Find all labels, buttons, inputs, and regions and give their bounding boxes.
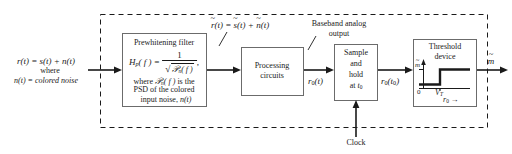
clock-arrow xyxy=(353,100,360,137)
formula-numerator: 1 xyxy=(162,50,197,61)
prewhitening-filter-title: Prewhitening filter xyxy=(134,39,194,48)
processing-circuits-line1: Processing xyxy=(255,62,290,71)
m-tilde-accent-plot: ~ xyxy=(416,57,420,64)
input-arrow xyxy=(88,67,122,74)
output-signal-label: ~m xyxy=(488,56,495,66)
threshold-transfer-plot xyxy=(419,59,470,91)
plot-y-axis-label: ~m xyxy=(415,62,420,70)
m-tilde-accent-output: ~ xyxy=(489,50,494,59)
clock-label: Clock xyxy=(346,139,365,148)
r0-of-t0-label: r0(t0) xyxy=(381,76,399,87)
s-tilde-accent: ~ xyxy=(233,14,238,23)
arrow-prewhitening-to-processing xyxy=(207,67,241,74)
arrow-sample-hold-to-threshold xyxy=(378,67,413,74)
output-arrow xyxy=(477,67,508,74)
plot-y-axis-arrowhead xyxy=(421,59,426,65)
n-tilde-accent: ~ xyxy=(256,14,261,23)
plot-step-curve xyxy=(419,70,470,85)
plot-origin-label: 0 xyxy=(417,89,421,97)
leader-line-prewhitened-signal xyxy=(219,32,227,46)
threshold-device-line2: device xyxy=(435,53,456,62)
formula-trailer: , xyxy=(197,57,199,67)
sample-hold-line1: Sample xyxy=(344,49,368,58)
baseband-output-label-line2: output xyxy=(329,30,349,39)
prewhitening-note-line3: input noise, n(t) xyxy=(141,96,192,105)
plot-threshold-label: VT xyxy=(435,89,443,98)
formula-lhs-arg: ( f ) = xyxy=(139,57,160,67)
formula-fraction: 1 √𝒫n( f ) xyxy=(162,50,197,74)
r0-of-t-label: r0(t) xyxy=(308,76,323,87)
arrow-processing-to-sample-hold xyxy=(304,67,334,74)
prewhitening-note-line2: PSD of the colored xyxy=(133,86,194,95)
prewhitened-signal-label: ~r(t) = ~s(t) + ~n(t) xyxy=(211,20,269,30)
sample-hold-line2: and xyxy=(350,60,362,69)
sample-hold-line3: hold xyxy=(349,71,363,80)
prewhitening-filter-formula: Hp( f ) = 1 √𝒫n( f ) , xyxy=(129,51,199,75)
plot-x-axis-arrow: → xyxy=(451,95,459,104)
processing-circuits-line2: circuits xyxy=(260,72,284,81)
formula-denominator: √𝒫n( f ) xyxy=(162,61,197,74)
input-signal-line3: n(t) = colored noise xyxy=(14,77,78,86)
sample-hold-line4: at at tt0 xyxy=(350,82,363,91)
input-signal-line2: where xyxy=(40,67,60,76)
plot-x-axis-label: r0 → xyxy=(443,96,459,105)
r-tilde-accent: ~ xyxy=(210,14,215,23)
leader-line-baseband-output xyxy=(308,36,316,50)
block-diagram-figure: r(t) = s(t) + n(t) where n(t) = colored … xyxy=(0,0,512,154)
